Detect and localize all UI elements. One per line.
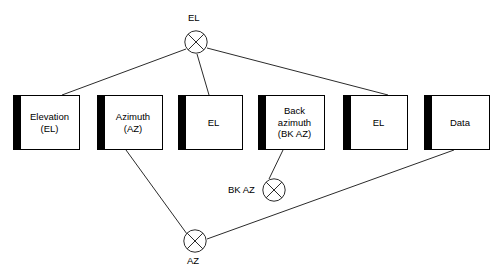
box-accent-bar <box>14 96 21 149</box>
connector-el-to-el3 <box>207 48 388 95</box>
connector-el-to-el2 <box>197 54 209 95</box>
node-box-label: Elevation (EL) <box>22 111 71 134</box>
node-box-el-3[interactable]: EL <box>343 95 408 150</box>
box-accent-bar <box>259 96 266 149</box>
circle-x-icon <box>184 30 208 54</box>
node-box-el-2[interactable]: EL <box>178 95 243 150</box>
junction-label-el: EL <box>188 12 200 23</box>
junction-el[interactable] <box>184 30 208 54</box>
junction-bk-az[interactable] <box>262 178 286 202</box>
junction-label-az: AZ <box>187 255 199 266</box>
node-box-azimuth[interactable]: Azimuth (AZ) <box>97 95 163 150</box>
box-accent-bar <box>179 96 186 149</box>
connector-azimuth-to-az <box>126 150 187 234</box>
connector-el-to-elevation <box>62 49 186 95</box>
diagram-canvas: Elevation (EL) Azimuth (AZ) EL Back azim… <box>0 0 501 276</box>
junction-az[interactable] <box>183 229 207 253</box>
node-box-label: EL <box>365 117 387 129</box>
node-box-label: Azimuth (AZ) <box>108 111 152 134</box>
circle-x-icon <box>262 178 286 202</box>
node-box-back-azimuth[interactable]: Back azimuth (BK AZ) <box>258 95 325 150</box>
node-box-data[interactable]: Data <box>424 95 490 150</box>
box-accent-bar <box>425 96 432 149</box>
connector-backaz-to-bkaz <box>269 150 283 179</box>
box-accent-bar <box>98 96 105 149</box>
box-accent-bar <box>344 96 351 149</box>
node-box-label: EL <box>200 117 222 129</box>
circle-x-icon <box>183 229 207 253</box>
junction-label-bk-az: BK AZ <box>228 184 255 195</box>
node-box-label: Back azimuth (BK AZ) <box>270 105 313 140</box>
node-box-elevation[interactable]: Elevation (EL) <box>13 95 80 150</box>
node-box-label: Data <box>442 117 472 129</box>
